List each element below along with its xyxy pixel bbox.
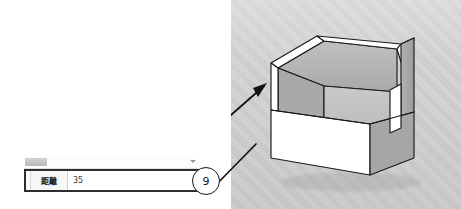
model-shadow [281, 172, 421, 192]
drag-handle[interactable] [25, 158, 47, 166]
model-viewport[interactable] [231, 0, 461, 209]
face-left-post [271, 63, 278, 114]
chevron-down-icon[interactable] [190, 160, 196, 163]
callout-number: 9 [203, 175, 210, 188]
measurement-widget[interactable]: 距離 35 [24, 156, 199, 192]
widget-toolbar[interactable] [24, 156, 199, 169]
distance-label: 距離 [31, 171, 68, 190]
leader-arrow-icon [231, 83, 267, 150]
box-model[interactable] [231, 0, 461, 209]
face-right-post [390, 84, 401, 133]
distance-field[interactable]: 距離 35 [24, 169, 199, 192]
callout-badge-9[interactable]: 9 [192, 167, 220, 195]
face-right-outer-upper [401, 38, 414, 118]
distance-value[interactable]: 35 [68, 171, 197, 190]
